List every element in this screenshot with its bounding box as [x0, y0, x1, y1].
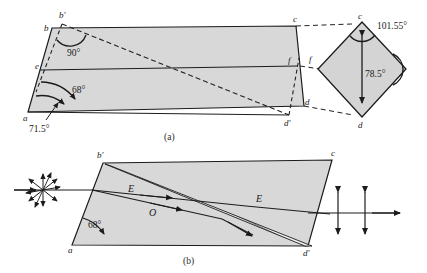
vertex-label-b: b [44, 23, 49, 33]
vertex-label-d: d [305, 97, 310, 107]
vertex-label-b-prime: b′ [59, 10, 67, 20]
vertex-label-a-b: a [68, 245, 73, 255]
ray-label-E-left: E [127, 183, 134, 194]
angle-label-90: 90° [67, 48, 81, 58]
vertex-label-c-b: c [331, 148, 335, 158]
vertex-label-d-prime-b: d′ [303, 248, 311, 258]
angle-label-71-5: 71.5° [29, 124, 50, 134]
caption-a: (a) [164, 132, 175, 143]
caption-b: (b) [183, 256, 194, 267]
diamond-vertex-label-c: c [358, 11, 362, 21]
ray-label-E-right: E [255, 193, 262, 204]
figure-canvas: a b b′ c d d′ e f 90° 68° 71.5° c f d 10… [0, 0, 427, 273]
angle-label-68: 68° [72, 85, 86, 95]
vertex-label-b-prime-b: b′ [97, 150, 105, 160]
vertex-label-e: e [35, 61, 39, 71]
vertex-label-c: c [293, 14, 297, 24]
diamond-angle-label-101-55: 101.55° [377, 21, 407, 31]
nicol-prism-figure: a b b′ c d d′ e f 90° 68° 71.5° c f d 10… [0, 0, 427, 273]
vertex-label-d-prime: d′ [284, 118, 292, 128]
diamond-angle-label-78-5: 78.5° [365, 69, 386, 79]
ray-label-O: O [149, 207, 156, 218]
vertex-label-a: a [23, 113, 28, 123]
diamond-vertex-label-d: d [358, 120, 363, 130]
angle-label-68-b: 68° [88, 220, 102, 230]
